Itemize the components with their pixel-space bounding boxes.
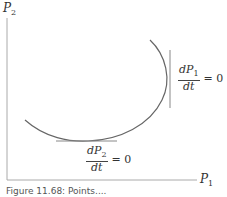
dp1-dt-annotation: dP1 dt = 0 [178, 64, 223, 93]
figure-caption: Figure 11.68: Points.... [6, 186, 106, 196]
y-axis-label: P2 [3, 1, 16, 17]
x-axis-label: P1 [200, 172, 213, 188]
dp2-dt-annotation: dP2 dt = 0 [86, 145, 131, 174]
trajectory-curve [25, 40, 167, 141]
